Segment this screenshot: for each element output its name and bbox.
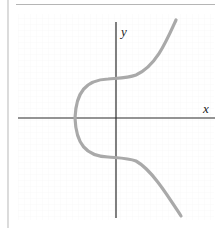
elliptic-curve-figure: y x [0,0,223,228]
y-axis-label: y [119,24,127,39]
curve-plot: y x [0,0,223,228]
x-axis-label: x [202,101,209,116]
